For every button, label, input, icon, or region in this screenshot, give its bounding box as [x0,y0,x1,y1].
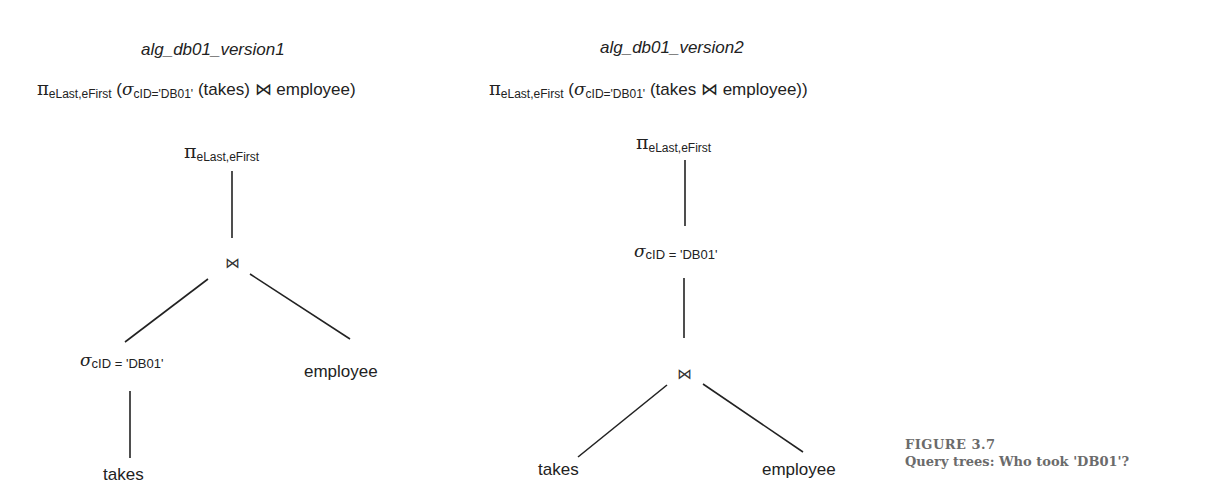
project-attributes: eLast,eFirst [197,150,260,164]
figure-caption: Query trees: Who took 'DB01'? [905,454,1129,469]
edge-v1-join-employee [250,274,350,339]
tree1-title: alg_db01_version1 [141,40,285,60]
edge-v2-join-takes [578,385,667,457]
select-symbol: σ [122,79,134,99]
project-symbol: π [636,131,649,153]
figure-number: FIGURE 3.7 [905,437,996,452]
edge-v2-join-employee [703,384,803,452]
tree1-join-node: ⋈ [225,254,240,272]
paren: ( [112,80,122,99]
tree1-project-node: πeLast,eFirst [184,140,259,164]
tree2-select-node: σcID = 'DB01' [634,241,717,262]
select-condition: cID = 'DB01' [646,247,718,262]
expr-part: (takes) [193,80,254,99]
tree1-expression: πeLast,eFirst (σcID='DB01' (takes) ⋈ emp… [37,78,356,101]
expr-part: (takes [645,80,701,99]
paren: ( [564,80,574,99]
tree2-leaf-employee: employee [762,460,836,480]
select-condition: cID = 'DB01' [92,356,164,371]
tree2-title: alg_db01_version2 [600,38,744,58]
project-symbol: π [489,78,501,99]
tree1-leaf-employee: employee [304,362,378,382]
project-attributes: eLast,eFirst [49,87,112,101]
project-attributes: eLast,eFirst [501,87,564,101]
project-attributes: eLast,eFirst [649,141,712,155]
tree2-expression: πeLast,eFirst (σcID='DB01' (takes ⋈ empl… [489,78,808,101]
join-symbol: ⋈ [255,80,272,99]
expr-part: employee) [272,80,356,99]
tree-edges [0,0,1221,502]
tree2-project-node: πeLast,eFirst [636,131,711,155]
project-symbol: π [37,78,49,99]
tree1-leaf-takes: takes [103,465,144,485]
select-condition: cID='DB01' [134,87,194,101]
tree1-select-node: σcID = 'DB01' [80,350,163,371]
edge-v1-join-select [125,279,208,342]
select-symbol: σ [634,241,646,261]
tree2-join-node: ⋈ [677,365,692,383]
select-symbol: σ [80,350,92,370]
tree2-leaf-takes: takes [538,460,579,480]
expr-part: employee)) [718,80,808,99]
select-condition: cID='DB01' [586,87,646,101]
select-symbol: σ [574,79,586,99]
join-symbol: ⋈ [701,80,718,99]
project-symbol: π [184,140,197,162]
